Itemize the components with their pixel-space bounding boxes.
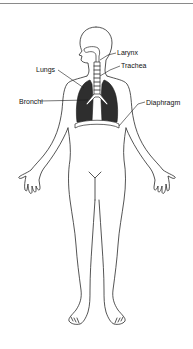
label-lungs: Lungs (36, 66, 56, 74)
label-bronchi: Bronchi (19, 98, 43, 105)
right-torso-leg-outline (99, 128, 126, 324)
diaphragm (75, 120, 119, 128)
left-torso-leg-outline (68, 128, 95, 324)
left-arm-outline (19, 76, 87, 193)
trachea-leader (100, 66, 120, 76)
groin-outline (89, 172, 101, 200)
right-arm-outline (107, 76, 175, 193)
lungs-leader (58, 70, 84, 88)
trachea (94, 62, 100, 96)
respiratory-diagram: Larynx Trachea Lungs Bronchi Diaphragm (0, 0, 193, 349)
right-toes (115, 317, 123, 323)
label-diaphragm: Diaphragm (146, 99, 180, 107)
label-trachea: Trachea (121, 62, 147, 69)
label-larynx: Larynx (117, 49, 139, 57)
left-toes (71, 317, 79, 323)
